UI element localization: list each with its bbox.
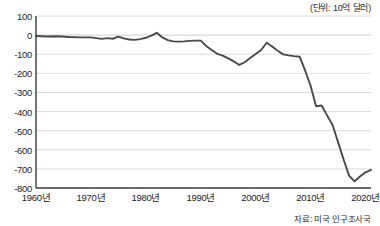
y-tick-label: -600 — [0, 144, 32, 155]
x-tick-label: 2010년 — [296, 190, 325, 204]
y-axis-labels: 1000-100-200-300-400-500-600-700-800 — [0, 16, 32, 188]
y-tick-label: 0 — [0, 30, 32, 41]
x-tick-label: 1960년 — [22, 190, 51, 204]
y-tick-label: -300 — [0, 87, 32, 98]
y-tick-label: -700 — [0, 163, 32, 174]
y-tick-label: -400 — [0, 106, 32, 117]
x-tick-label: 1970년 — [77, 190, 106, 204]
line-chart-svg — [36, 16, 371, 188]
y-tick-label: -100 — [0, 49, 32, 60]
source-caption: 자료: 미국 인구조사국 — [294, 212, 371, 224]
y-tick-label: 100 — [0, 11, 32, 22]
unit-caption: (단위: 10억 달러) — [310, 1, 371, 14]
x-axis-labels: 1960년1970년1980년1990년2000년2010년2020년 — [36, 190, 371, 206]
x-tick-label: 1990년 — [186, 190, 215, 204]
y-tick-label: -200 — [0, 68, 32, 79]
gridlines — [36, 16, 371, 169]
plot-area — [36, 16, 371, 188]
x-tick-label: 1980년 — [132, 190, 161, 204]
data-line-series — [36, 33, 371, 181]
x-tick-label: 2000년 — [241, 190, 270, 204]
y-tick-label: -500 — [0, 125, 32, 136]
x-tick-label: 2020년 — [351, 190, 380, 204]
